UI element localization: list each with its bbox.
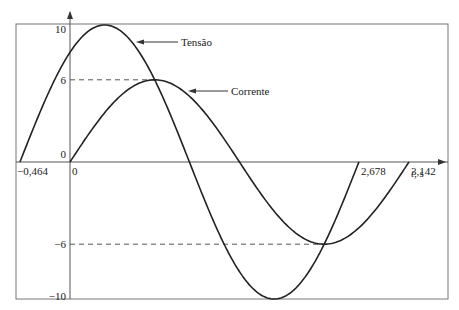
tensao-label: Tensão [181, 36, 212, 48]
y-tick-label: 10 [55, 23, 67, 35]
x-axis-title: t, s [411, 167, 424, 179]
x-tick-label: −0,464 [17, 165, 48, 177]
x-tick-label: 0 [72, 165, 78, 177]
y-tick-label: 6 [61, 74, 67, 86]
x-tick-label: 2,678 [361, 165, 386, 177]
voltage-current-chart: 1060−6−10−0,46402,6783,142 Tensão Corren… [0, 0, 459, 310]
tensao-arrow-icon [136, 40, 144, 45]
y-tick-label: 0 [61, 148, 67, 160]
x-axis-unit: , s [414, 167, 424, 179]
y-tick-label: −6 [54, 238, 66, 250]
corrente-arrow-icon [188, 89, 196, 94]
y-tick-label: −10 [49, 290, 67, 302]
x-axis-arrow-icon [438, 159, 446, 165]
y-axis-arrow-icon [67, 11, 73, 19]
corrente-label: Corrente [231, 85, 270, 97]
